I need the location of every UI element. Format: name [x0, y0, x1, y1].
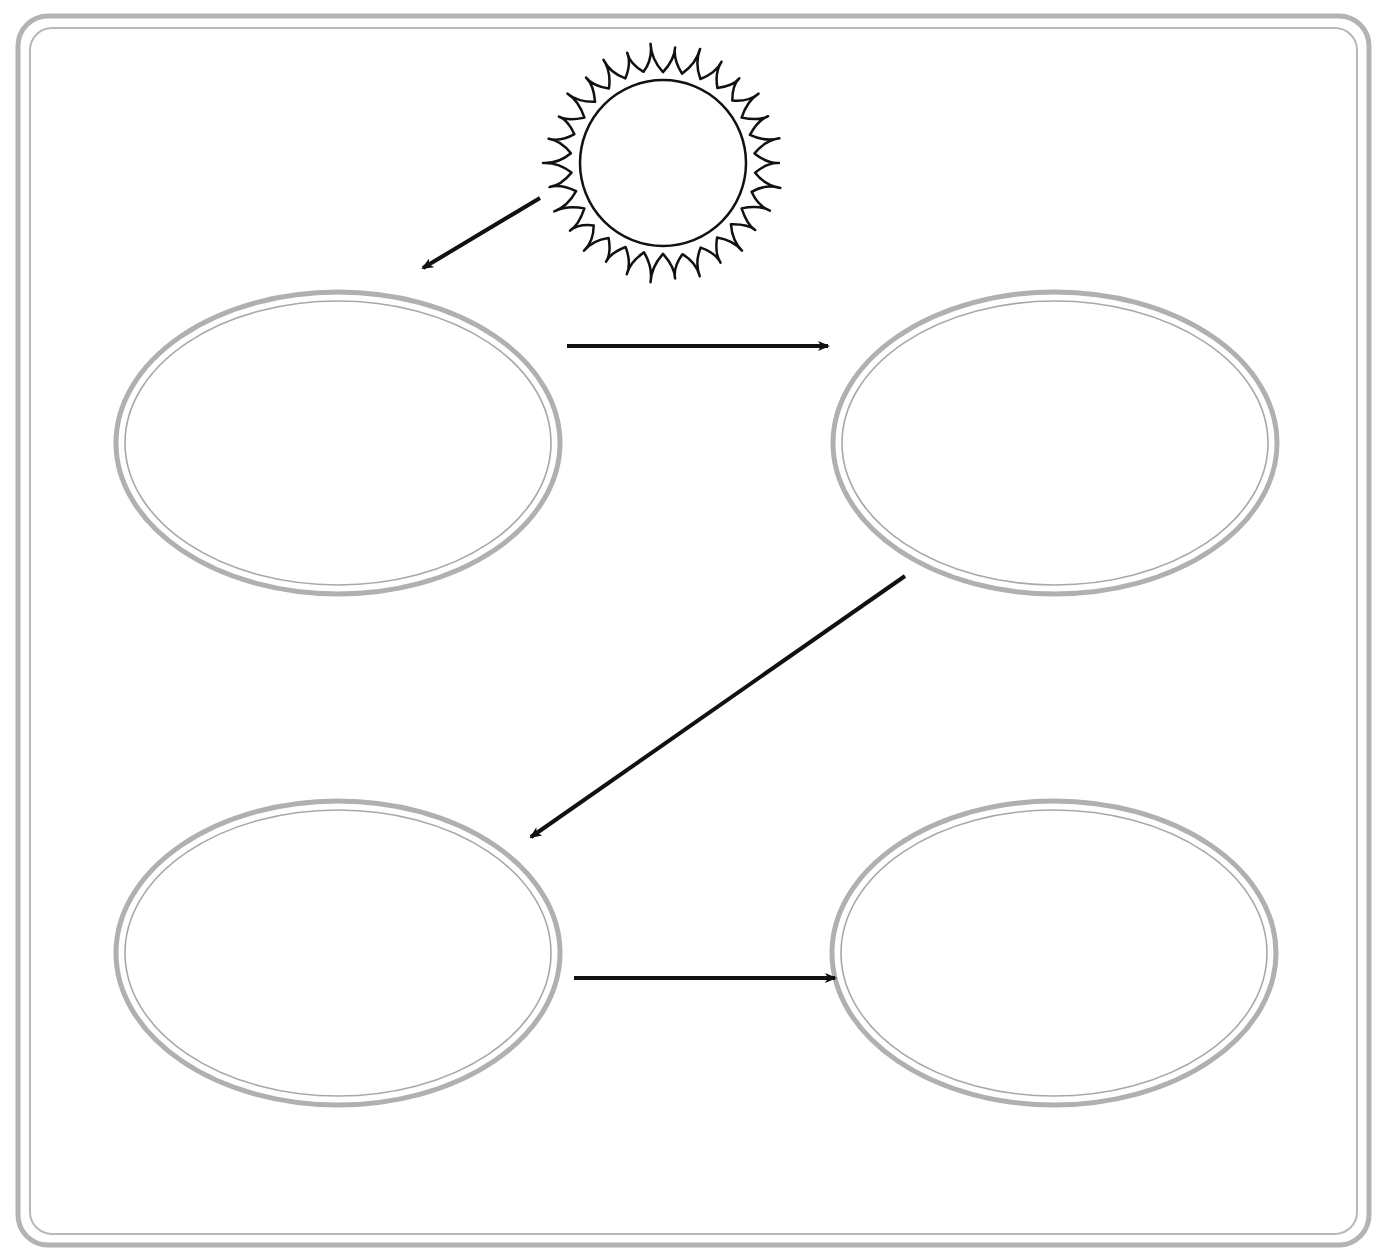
node-2	[833, 292, 1277, 594]
node-outer-ring	[116, 801, 560, 1105]
arrow-sun-to-node-1	[423, 198, 540, 268]
node-1	[116, 292, 560, 594]
node-4	[832, 801, 1276, 1105]
sun-disc	[580, 80, 746, 246]
node-outer-ring	[833, 292, 1277, 594]
diagram-canvas	[0, 0, 1392, 1252]
node-outer-ring	[116, 292, 560, 594]
node-outer-ring	[832, 801, 1276, 1105]
sun-icon	[543, 44, 780, 283]
diagram-nodes	[116, 292, 1277, 1105]
node-3	[116, 801, 560, 1105]
arrow-node-2-to-node-3	[531, 576, 905, 837]
